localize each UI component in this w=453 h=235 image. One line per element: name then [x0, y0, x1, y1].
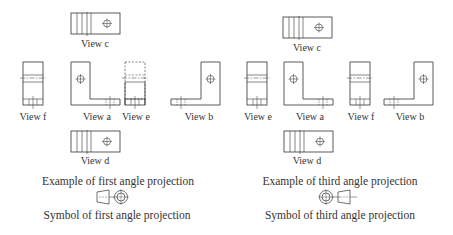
third-view-d-label: View d	[293, 155, 322, 166]
third-view-b-label: View b	[396, 111, 425, 122]
third-view-a-label: View a	[296, 111, 324, 122]
first-view-a-drawing	[71, 62, 120, 109]
third-view-a-drawing	[284, 62, 333, 109]
third-view-d-drawing	[284, 130, 333, 154]
first-view-c-drawing	[71, 12, 120, 36]
first-angle-caption: Example of first angle projection	[42, 175, 194, 187]
first-view-b-label: View b	[185, 111, 214, 122]
third-view-e-drawing	[244, 62, 270, 109]
first-view-b-drawing	[171, 62, 220, 109]
third-view-e-label: View e	[244, 111, 272, 122]
first-angle-symbol-icon	[97, 189, 129, 205]
first-view-e-label: View e	[122, 111, 150, 122]
third-view-c-drawing	[283, 16, 332, 40]
first-view-a-label: View a	[83, 111, 111, 122]
third-angle-symbol-icon	[318, 189, 357, 205]
third-angle-caption: Example of third angle projection	[262, 175, 417, 187]
third-view-b-drawing	[384, 62, 433, 109]
third-view-c-label: View c	[293, 42, 321, 53]
first-view-f-label: View f	[20, 111, 47, 122]
first-view-d-drawing	[71, 130, 120, 154]
third-view-f-label: View f	[348, 111, 375, 122]
first-view-d-label: View d	[81, 155, 110, 166]
projection-diagram	[0, 0, 453, 235]
first-angle-symbol-caption: Symbol of first angle projection	[44, 209, 191, 221]
first-view-c-label: View c	[81, 38, 109, 49]
first-view-f-drawing	[20, 62, 46, 109]
third-view-f-drawing	[347, 62, 373, 109]
first-view-e-drawing	[122, 62, 148, 109]
third-angle-symbol-caption: Symbol of third angle projection	[265, 209, 415, 221]
